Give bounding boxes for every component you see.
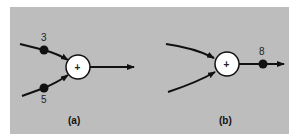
node-label-8: 8 (259, 46, 265, 57)
panel-b: + 8 (b) (166, 44, 284, 126)
node-label-5: 5 (41, 94, 47, 105)
signal-flow-diagram: 3 5 + (a) + 8 (b) (0, 0, 299, 140)
node-dot-3 (40, 46, 49, 55)
caption-a: (a) (68, 115, 80, 126)
node-dot-8 (259, 60, 268, 69)
input-curve-top (166, 44, 214, 58)
node-dot-5 (40, 84, 49, 93)
panel-a: 3 5 + (a) (20, 32, 134, 126)
plus-icon: + (75, 62, 81, 73)
plus-icon: + (224, 59, 230, 70)
node-label-3: 3 (41, 32, 47, 43)
input-curve-bottom (168, 72, 215, 92)
caption-b: (b) (219, 115, 232, 126)
